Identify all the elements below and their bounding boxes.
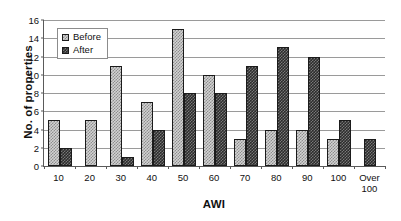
x-tick-mark xyxy=(75,166,76,169)
x-tick-mark xyxy=(44,166,45,169)
bar-group xyxy=(168,20,199,166)
chart-figure: No. of properties 0246810121416 10203040… xyxy=(0,0,401,221)
x-tick-mark xyxy=(323,166,324,169)
x-tick-label: 10 xyxy=(43,172,74,194)
bar-group xyxy=(354,20,385,166)
x-tick-label: Over 100 xyxy=(354,172,385,194)
bar-group xyxy=(199,20,230,166)
bar-after xyxy=(60,148,72,166)
y-tick-label: 0 xyxy=(34,161,39,172)
bar-group xyxy=(323,20,354,166)
bar-before xyxy=(234,139,246,166)
bar-before xyxy=(327,139,339,166)
x-tick-label: 80 xyxy=(261,172,292,194)
x-tick-mark xyxy=(137,166,138,169)
y-tick-label: 2 xyxy=(34,142,39,153)
x-tick-mark xyxy=(261,166,262,169)
bar-after xyxy=(339,120,351,166)
bar-after xyxy=(184,93,196,166)
x-axis-title: AWI xyxy=(43,198,385,210)
x-tick-mark xyxy=(385,166,386,169)
x-tick-mark xyxy=(199,166,200,169)
bar-before xyxy=(48,120,60,166)
x-tick-label: 50 xyxy=(167,172,198,194)
x-tick-label: 30 xyxy=(105,172,136,194)
bar-after xyxy=(277,47,289,166)
x-tick-label: 20 xyxy=(74,172,105,194)
bar-before xyxy=(85,120,97,166)
legend-item-before: Before xyxy=(62,32,101,42)
bar-group xyxy=(106,20,137,166)
bar-after xyxy=(364,139,376,166)
x-axis-tick-labels: 102030405060708090100Over 100 xyxy=(43,172,385,194)
bar-after xyxy=(122,157,134,166)
bar-before xyxy=(172,29,184,166)
bar-before xyxy=(203,75,215,166)
bar-before xyxy=(296,130,308,167)
y-tick-label: 10 xyxy=(28,69,39,80)
bar-group xyxy=(137,20,168,166)
x-tick-label: 40 xyxy=(136,172,167,194)
y-tick-label: 14 xyxy=(28,33,39,44)
bar-after xyxy=(246,66,258,166)
legend-label-before: Before xyxy=(73,32,101,42)
x-tick-mark xyxy=(106,166,107,169)
y-tick-label: 12 xyxy=(28,51,39,62)
bar-after xyxy=(153,130,165,167)
bar-before xyxy=(110,66,122,166)
y-tick-label: 6 xyxy=(34,106,39,117)
x-tick-label: 70 xyxy=(230,172,261,194)
bar-group xyxy=(230,20,261,166)
bar-before xyxy=(265,130,277,167)
legend-label-after: After xyxy=(73,45,93,55)
legend-item-after: After xyxy=(62,45,101,55)
x-tick-label: 60 xyxy=(198,172,229,194)
x-tick-label: 100 xyxy=(323,172,354,194)
bar-after xyxy=(308,57,320,167)
bar-after xyxy=(215,93,227,166)
legend-swatch-after-icon xyxy=(62,47,69,54)
x-tick-label: 90 xyxy=(292,172,323,194)
bar-group xyxy=(292,20,323,166)
x-tick-mark xyxy=(168,166,169,169)
bar-before xyxy=(141,102,153,166)
y-tick-label: 16 xyxy=(28,15,39,26)
x-tick-mark xyxy=(354,166,355,169)
x-tick-mark xyxy=(230,166,231,169)
legend-swatch-before-icon xyxy=(62,34,69,41)
x-tick-mark xyxy=(292,166,293,169)
y-tick-label: 4 xyxy=(34,124,39,135)
y-tick-label: 8 xyxy=(34,88,39,99)
legend: Before After xyxy=(57,28,108,59)
bar-group xyxy=(261,20,292,166)
